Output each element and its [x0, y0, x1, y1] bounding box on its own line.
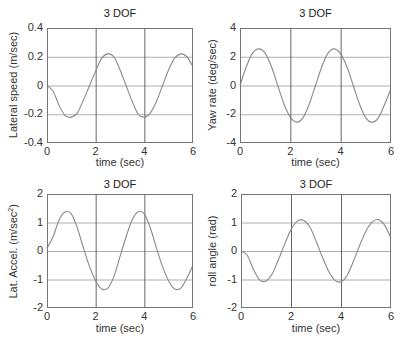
subplot-roll-angle: 3 DOF roll angle (rad) time (sec) -2-101… — [0, 0, 404, 344]
figure: 3 DOF Lateral speed (m/sec) time (sec) -… — [0, 0, 404, 344]
y-tick-label: 2 — [207, 187, 237, 199]
y-tick-label: -1 — [207, 273, 237, 285]
x-tick-label: 4 — [331, 310, 351, 322]
x-tick-label: 0 — [231, 310, 251, 322]
data-line — [241, 219, 391, 282]
x-tick-label: 6 — [381, 310, 401, 322]
y-tick-label: 1 — [207, 216, 237, 228]
x-axis-label: time (sec) — [241, 322, 391, 334]
plot-title: 3 DOF — [241, 178, 391, 190]
axes-frame — [242, 195, 391, 308]
x-tick-label: 2 — [281, 310, 301, 322]
plot-area — [241, 194, 391, 308]
y-tick-label: 0 — [207, 244, 237, 256]
